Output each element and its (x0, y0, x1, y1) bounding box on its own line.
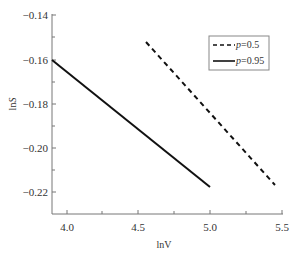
x-ticks (67, 210, 282, 214)
ytick-label: −0.20 (23, 142, 49, 154)
legend-label-p095: p=0.95 (235, 55, 264, 66)
ytick-label: −0.22 (23, 186, 48, 198)
chart: −0.14 −0.16 −0.18 −0.20 −0.22 4.0 4.5 5.… (0, 0, 300, 253)
ytick-label: −0.14 (23, 9, 49, 21)
y-axis-label: lnS (7, 98, 18, 111)
xtick-label: 4.5 (131, 221, 145, 233)
ytick-label: −0.18 (23, 98, 49, 110)
ytick-label: −0.16 (23, 54, 49, 66)
xtick-label: 4.0 (60, 221, 74, 233)
series-p095-line (52, 60, 210, 187)
xtick-label: 5.0 (203, 221, 217, 233)
legend: p=0.5 p=0.95 (209, 36, 269, 70)
xtick-label: 5.5 (275, 221, 289, 233)
x-axis-label: lnV (157, 239, 173, 250)
y-ticks (52, 15, 56, 192)
legend-label-p05: p=0.5 (235, 39, 259, 50)
